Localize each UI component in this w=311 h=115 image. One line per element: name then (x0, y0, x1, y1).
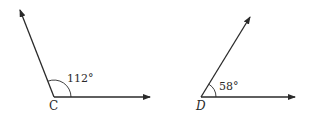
ray-c-oblique (20, 10, 54, 97)
angle-d: 58° D (195, 17, 295, 113)
angle-c: 112° C (20, 10, 150, 113)
vertex-label-c: C (49, 99, 58, 113)
angle-diagram: 112° C 58° D (0, 0, 311, 115)
vertex-label-d: D (195, 99, 206, 113)
angle-measure-c: 112° (67, 72, 94, 85)
angle-measure-d: 58° (219, 80, 239, 93)
angle-arc-d (209, 84, 216, 97)
